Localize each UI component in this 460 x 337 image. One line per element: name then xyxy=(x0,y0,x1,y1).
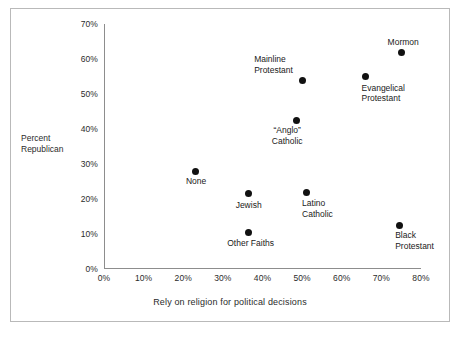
scatter-point-label: None xyxy=(186,176,206,187)
scatter-point[interactable] xyxy=(396,222,403,229)
scatter-point-label-line: Evangelical xyxy=(362,83,405,94)
y-tick-label: 10% xyxy=(62,229,98,239)
x-tick-label: 50% xyxy=(293,273,310,283)
scatter-point-label-line: Protestant xyxy=(254,65,293,76)
scatter-point-label-line: “Anglo” xyxy=(272,125,303,136)
scatter-point-label-line: Black xyxy=(395,230,434,241)
scatter-point-label-line: Protestant xyxy=(362,93,405,104)
x-tick-label: 10% xyxy=(135,273,152,283)
scatter-point[interactable] xyxy=(293,117,300,124)
x-tick-label: 60% xyxy=(333,273,350,283)
scatter-point-label-line: Mainline xyxy=(254,54,293,65)
scatter-point-label-line: Protestant xyxy=(395,241,434,252)
scatter-point[interactable] xyxy=(245,229,252,236)
scatter-point-label: BlackProtestant xyxy=(395,230,434,251)
scatter-point-label: “Anglo”Catholic xyxy=(272,125,303,146)
y-axis-line xyxy=(104,24,105,269)
scatter-point[interactable] xyxy=(362,73,369,80)
scatter-point-label-line: Catholic xyxy=(302,209,333,220)
y-tick-label: 20% xyxy=(62,194,98,204)
scatter-point-label: Other Faiths xyxy=(227,238,274,249)
x-tick-label: 0% xyxy=(98,273,111,283)
scatter-point-label: Mormon xyxy=(388,37,419,48)
chart-figure-frame: PercentRepublican 0%10%20%30%40%50%60%70… xyxy=(10,8,450,322)
x-axis-line xyxy=(104,268,421,269)
y-tick-label: 60% xyxy=(62,54,98,64)
y-tick-label: 40% xyxy=(62,124,98,134)
scatter-point-label: EvangelicalProtestant xyxy=(362,83,405,104)
y-axis-title: PercentRepublican xyxy=(21,133,97,155)
scatter-point[interactable] xyxy=(299,77,306,84)
scatter-point[interactable] xyxy=(192,168,199,175)
y-tick-label: 0% xyxy=(62,264,98,274)
scatter-point-label-line: None xyxy=(186,176,206,187)
x-tick-label: 70% xyxy=(373,273,390,283)
y-axis-title-line: Percent xyxy=(21,133,97,144)
scatter-point-label-line: Jewish xyxy=(236,200,262,211)
scatter-point-label: LatinoCatholic xyxy=(302,198,333,219)
x-tick-label: 80% xyxy=(412,273,429,283)
scatter-point-label: Jewish xyxy=(236,200,262,211)
x-tick-label: 30% xyxy=(214,273,231,283)
x-tick-label: 20% xyxy=(175,273,192,283)
y-axis-title-line: Republican xyxy=(21,144,97,155)
scatter-point-label-line: Catholic xyxy=(272,136,303,147)
scatter-point[interactable] xyxy=(303,189,310,196)
y-tick-label: 30% xyxy=(62,159,98,169)
scatter-point-label-line: Mormon xyxy=(388,37,419,48)
scatter-point-label: MainlineProtestant xyxy=(254,54,293,75)
y-tick-label: 50% xyxy=(62,89,98,99)
x-axis-title: Rely on religion for political decisions xyxy=(11,297,449,307)
scatter-point[interactable] xyxy=(398,49,405,56)
scatter-point-label-line: Latino xyxy=(302,198,333,209)
x-tick-label: 40% xyxy=(254,273,271,283)
scatter-point-label-line: Other Faiths xyxy=(227,238,274,249)
y-tick-label: 70% xyxy=(62,19,98,29)
